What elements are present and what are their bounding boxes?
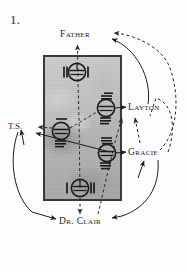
- connector-gracie-to-layton: [135, 118, 140, 143]
- label-dr-clair: Dr. Clair: [59, 217, 101, 227]
- figure-number: 1.: [10, 12, 20, 28]
- label-gracie: Gracie: [128, 148, 158, 158]
- connector-gracie-to-father: [114, 33, 176, 150]
- figure-canvas: 1.: [0, 0, 187, 272]
- connector-gracie-inbound-arrow: [138, 161, 144, 178]
- connector-ts-inbound-arrow: [21, 130, 24, 145]
- label-father: Father: [60, 30, 90, 40]
- label-layton: Layton: [128, 103, 160, 113]
- label-ts: T.S.: [8, 122, 22, 131]
- panel-texture: [45, 57, 120, 199]
- grey-photo-panel: [43, 55, 122, 201]
